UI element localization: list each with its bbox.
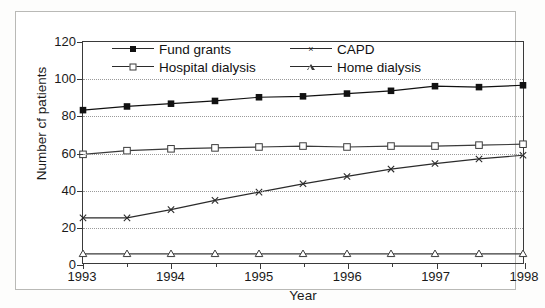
data-point-filled-square-marker: [344, 90, 351, 97]
y-tick-label: 120: [54, 34, 76, 49]
series-capd: [80, 152, 526, 221]
data-point-filled-square-marker: [168, 100, 175, 107]
legend-label: Hospital dialysis: [159, 60, 256, 75]
x-axis-tick-labels: 199319941995199619971998: [82, 269, 524, 287]
y-tick-label: 80: [62, 108, 76, 123]
legend-swatch-filled-square-icon: [112, 44, 154, 54]
legend-label: Fund grants: [159, 42, 231, 57]
y-tick-label: 100: [54, 71, 76, 86]
data-point-open-square-marker: [344, 144, 351, 151]
series-line: [83, 155, 523, 218]
x-tick-label: 1994: [156, 269, 185, 284]
series-fund-grants: [80, 82, 527, 113]
x-axis-minor-tick: [127, 263, 128, 267]
x-axis-minor-tick: [392, 263, 393, 267]
figure-root: 020406080100120 Number cf patients 19931…: [0, 0, 545, 308]
x-tick-label: 1993: [68, 269, 97, 284]
data-point-open-square-marker: [388, 143, 395, 150]
y-axis-tick: [77, 42, 83, 43]
data-point-filled-square-marker: [80, 107, 87, 114]
x-axis-minor-tick: [304, 263, 305, 267]
x-tick-label: 1996: [333, 269, 362, 284]
legend-entry-capd[interactable]: ×CAPD: [290, 42, 440, 57]
y-tick-label: 40: [62, 182, 76, 197]
y-tick-label: 20: [62, 219, 76, 234]
x-axis-title: Year: [82, 288, 524, 303]
legend-swatch-open-square-icon: [112, 62, 154, 72]
series-hospital-dialysis: [80, 141, 527, 158]
data-point-filled-square-marker: [432, 83, 439, 90]
data-point-open-square-marker: [300, 143, 307, 150]
legend-label: CAPD: [337, 42, 375, 57]
legend-entry-hospital-dialysis[interactable]: Hospital dialysis: [112, 60, 290, 75]
gridline: [83, 79, 523, 80]
x-tick-label: 1997: [421, 269, 450, 284]
series-home-dialysis: [79, 250, 527, 257]
data-point-filled-square-marker: [520, 82, 527, 89]
x-tick-label: 1995: [244, 269, 273, 284]
legend-entry-fund-grants[interactable]: Fund grants: [112, 42, 290, 57]
data-point-open-square-marker: [432, 143, 439, 150]
x-axis-minor-tick: [216, 263, 217, 267]
data-point-filled-square-marker: [388, 88, 395, 95]
gridline: [83, 116, 523, 117]
data-point-open-square-marker: [520, 141, 527, 148]
legend-swatch-cross-icon: ×: [290, 44, 332, 54]
gridline: [83, 154, 523, 155]
y-tick-label: 60: [62, 145, 76, 160]
data-point-open-square-marker: [476, 142, 483, 149]
data-point-filled-square-marker: [476, 84, 483, 91]
data-point-open-square-marker: [168, 146, 175, 153]
gridline: [83, 191, 523, 192]
data-point-filled-square-marker: [256, 94, 263, 101]
figure-outer-frame: 020406080100120 Number cf patients 19931…: [15, 11, 516, 290]
data-point-filled-square-marker: [300, 93, 307, 100]
legend-label: Home dialysis: [337, 60, 421, 75]
gridline: [83, 228, 523, 229]
legend-entry-home-dialysis[interactable]: Home dialysis: [290, 60, 440, 75]
data-point-open-square-marker: [256, 144, 263, 151]
chart-legend: Fund grants×CAPDHospital dialysisHome di…: [112, 40, 442, 76]
legend-swatch-open-triangle-icon: [290, 62, 332, 72]
x-tick-label: 1998: [510, 269, 539, 284]
data-point-filled-square-marker: [124, 103, 131, 110]
data-point-filled-square-marker: [212, 98, 219, 105]
y-axis-title: Number cf patients: [34, 34, 49, 214]
data-point-open-square-marker: [212, 145, 219, 152]
x-axis-minor-tick: [481, 263, 482, 267]
